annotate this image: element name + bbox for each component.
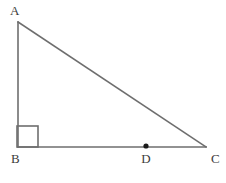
geometry-figure: A B D C <box>0 0 226 183</box>
right-angle-marker-icon <box>17 126 38 147</box>
vertex-label-a: A <box>10 4 19 17</box>
triangle-diagram-canvas <box>0 0 226 183</box>
segment-ac-hypotenuse <box>18 22 206 147</box>
vertex-label-b: B <box>11 152 20 165</box>
point-marker-d <box>143 143 148 148</box>
vertex-label-c: C <box>211 152 220 165</box>
vertex-label-d: D <box>141 152 150 165</box>
